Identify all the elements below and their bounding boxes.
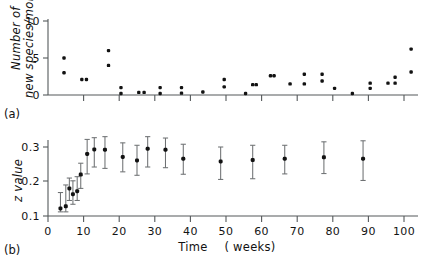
data-point [269, 74, 272, 77]
errorbar-point [218, 147, 223, 179]
data-point [255, 83, 258, 86]
data-point [80, 78, 83, 81]
errorbar-point [67, 178, 72, 200]
data-point [351, 92, 354, 95]
panel-b-xtick-50: 50 [219, 225, 234, 238]
data-point [393, 76, 396, 79]
errorbar-point [321, 142, 326, 174]
panel-a-x-ticks [84, 95, 404, 101]
errorbar-point [163, 138, 168, 168]
panel-a-label: (a) [4, 107, 20, 121]
panel-a-ytick-0: 0 [33, 89, 40, 102]
data-point [107, 64, 110, 67]
panel-b: z value 0.1 0.2 0.3 01020304050607080901… [11, 137, 418, 254]
data-point [62, 71, 65, 74]
panel-b-xtick-0: 0 [44, 225, 51, 238]
panel-b-xtick-90: 90 [361, 225, 376, 238]
errorbar-point [92, 138, 97, 167]
panel-b-xlabel-units: ( weeks) [224, 240, 275, 254]
data-point [288, 82, 291, 85]
panel-a-ytick-5: 5 [33, 52, 40, 65]
data-point [201, 90, 204, 93]
data-point [119, 86, 122, 89]
data-point [62, 56, 65, 59]
data-point [180, 91, 183, 94]
panel-b-y-ticks: 0.1 0.2 0.3 [21, 141, 48, 223]
panel-b-ytick-03: 0.3 [21, 141, 40, 154]
data-point [393, 81, 396, 84]
errorbar-point [85, 139, 90, 174]
panel-b-xtick-70: 70 [290, 225, 305, 238]
data-point [180, 86, 183, 89]
data-point [303, 82, 306, 85]
errorbar-point [58, 193, 63, 212]
panel-b-x-ticks: 0102030405060708090100 [44, 216, 415, 238]
data-point [272, 74, 275, 77]
errorbar-point [102, 137, 107, 169]
data-point [368, 87, 371, 90]
data-point [409, 70, 412, 73]
panel-b-xtick-30: 30 [147, 225, 162, 238]
panel-b-xtick-80: 80 [325, 225, 340, 238]
panel-b-xtick-100: 100 [393, 225, 415, 238]
data-point [85, 78, 88, 81]
errorbar-point [145, 137, 150, 167]
panel-b-label: (b) [4, 243, 20, 257]
panel-a-ylabel-line1: Number of [9, 5, 23, 70]
data-point [386, 81, 389, 84]
errorbar-point [282, 145, 287, 174]
panel-b-xtick-20: 20 [112, 225, 127, 238]
errorbar-point [250, 145, 255, 178]
panel-b-xtick-60: 60 [254, 225, 269, 238]
panel-a: Number of new species/month 0 5 10 [9, 0, 418, 102]
data-point [107, 49, 110, 52]
data-point [119, 92, 122, 95]
data-point [320, 73, 323, 76]
data-point [320, 79, 323, 82]
data-point [158, 86, 161, 89]
errorbar-point [134, 145, 139, 175]
figure-container: Number of new species/month 0 5 10 (a) z… [0, 0, 429, 260]
panel-b-ytick-01: 0.1 [21, 210, 40, 223]
data-point [409, 47, 412, 50]
data-point [333, 87, 336, 90]
errorbar-point [181, 144, 186, 174]
data-point [368, 81, 371, 84]
scientific-figure: Number of new species/month 0 5 10 (a) z… [0, 0, 429, 260]
panel-a-ytick-10: 10 [25, 15, 40, 28]
data-point [158, 92, 161, 95]
data-point [137, 91, 140, 94]
errorbar-point [78, 163, 83, 188]
data-point [142, 91, 145, 94]
data-point [223, 85, 226, 88]
panel-b-xtick-10: 10 [76, 225, 91, 238]
panel-b-ytick-02: 0.2 [21, 175, 40, 188]
data-point [303, 73, 306, 76]
panel-b-xlabel-main: Time [177, 240, 207, 254]
data-point [251, 83, 254, 86]
panel-b-xtick-40: 40 [183, 225, 198, 238]
data-point [244, 92, 247, 95]
data-point [223, 78, 226, 81]
panel-a-data-points [62, 47, 413, 95]
panel-b-data-points [58, 137, 366, 212]
errorbar-point [360, 141, 365, 181]
errorbar-point [120, 143, 125, 172]
